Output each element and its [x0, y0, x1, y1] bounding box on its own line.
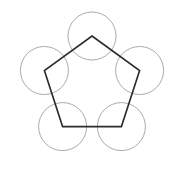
diagram-background: [0, 0, 184, 193]
figure-canvas: [0, 0, 184, 193]
pentagon-circles-diagram: [0, 0, 184, 193]
